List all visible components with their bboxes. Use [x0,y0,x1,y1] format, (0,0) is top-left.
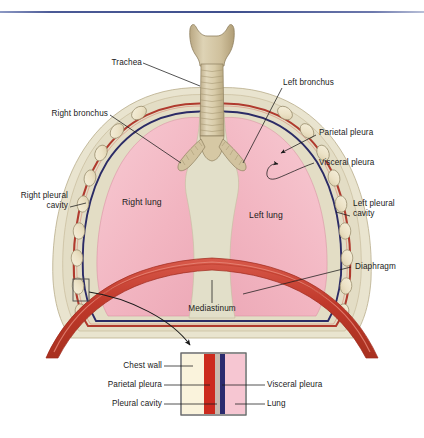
label-left-bronchus: Left bronchus [283,78,363,88]
label-inset-pleural-cavity: Pleural cavity [84,399,162,409]
inset-layer-parietal-pleura [204,354,215,414]
label-left-lung: Left lung [249,211,309,221]
label-right-pleural-cavity-line2: cavity [10,201,68,211]
rib [71,250,83,267]
rib [73,223,85,240]
anatomy-illustration [0,0,424,438]
inset-layer-pleural-cavity [215,354,220,414]
inset-layer-lung [225,354,245,414]
inset-layer-visceral-pleura [220,354,225,414]
label-right-lung: Right lung [122,198,182,208]
label-inset-lung: Lung [267,399,317,409]
label-left-pleural-cavity-line1: Left pleural [353,199,413,209]
inset-layer-chest-wall [182,354,204,414]
label-right-pleural-cavity-line1: Right pleural [10,191,68,201]
label-trachea: Trachea [100,58,142,68]
label-inset-visceral-pleura: Visceral pleura [267,380,353,390]
label-mediastinum: Mediastinum [178,304,246,314]
label-left-pleural-cavity-line2: cavity [353,209,413,219]
label-inset-parietal-pleura: Parietal pleura [80,380,162,390]
label-visceral-pleura: Visceral pleura [319,158,405,168]
rib [341,250,353,267]
label-parietal-pleura: Parietal pleura [319,128,405,138]
figure-canvas: Trachea Right bronchus Left bronchus Par… [0,0,424,438]
trachea-tube [200,64,224,136]
larynx [190,25,235,66]
label-diaphragm: Diaphragm [355,262,417,272]
label-inset-chest-wall: Chest wall [98,361,162,371]
rib [339,223,351,240]
inset-detail-box [164,353,265,415]
label-right-bronchus: Right bronchus [20,109,108,119]
leader-trachea [143,63,200,86]
